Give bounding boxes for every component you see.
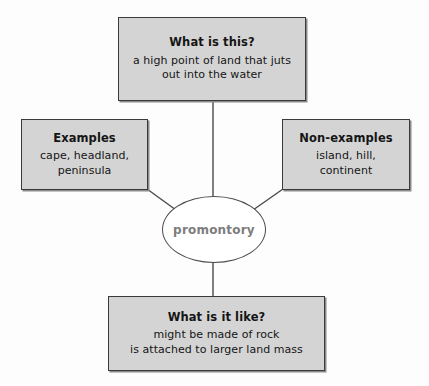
node-definition-title: What is this? bbox=[169, 35, 254, 49]
center-term-label: promontory bbox=[173, 223, 255, 237]
node-non-examples[interactable]: Non-examples island, hill, continent bbox=[282, 119, 410, 190]
node-non-examples-title: Non-examples bbox=[299, 131, 392, 145]
node-definition[interactable]: What is this? a high point of land that … bbox=[118, 17, 306, 101]
node-characteristics-title: What is it like? bbox=[168, 310, 266, 324]
connector-examples-to-center bbox=[147, 189, 176, 210]
node-examples-title: Examples bbox=[53, 131, 116, 145]
connector-nonexamples-to-center bbox=[253, 189, 283, 210]
node-characteristics[interactable]: What is it like? might be made of rock i… bbox=[108, 296, 325, 371]
node-non-examples-body: island, hill, continent bbox=[316, 149, 376, 178]
center-term-ellipse[interactable]: promontory bbox=[162, 196, 266, 263]
node-characteristics-body: might be made of rock is attached to lar… bbox=[130, 328, 303, 357]
node-definition-body: a high point of land that juts out into … bbox=[133, 54, 291, 83]
concept-map-diagram: What is this? a high point of land that … bbox=[0, 0, 429, 386]
node-examples[interactable]: Examples cape, headland, peninsula bbox=[21, 119, 148, 190]
node-examples-body: cape, headland, peninsula bbox=[40, 149, 129, 178]
